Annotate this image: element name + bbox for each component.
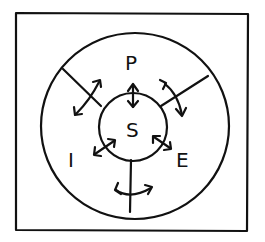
label-top: P (125, 51, 137, 75)
arrow-upper-left-icon (74, 80, 101, 115)
arrow-right-icon (153, 136, 171, 150)
label-right: E (176, 148, 189, 172)
center-label: S (126, 118, 139, 142)
divider-bottom (130, 160, 131, 212)
diagram-canvas: S P I E (0, 0, 265, 242)
divider-right (161, 76, 208, 106)
arrow-bottom-icon (115, 183, 152, 195)
label-left: I (68, 148, 74, 172)
arrow-top-icon (128, 84, 138, 107)
